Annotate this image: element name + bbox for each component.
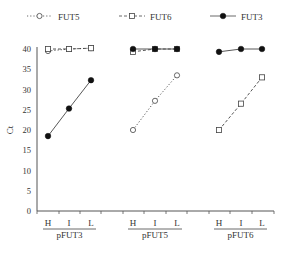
filled-circle-marker — [45, 133, 51, 139]
y-axis-title: Ct — [5, 125, 15, 134]
legend-item-fut6: FUT6 — [119, 12, 172, 22]
ct-line-chart: FUT5FUT6FUT3 0510152025303540Ct HILpFUT3… — [0, 0, 285, 253]
x-category-label: L — [259, 218, 265, 228]
open-square-marker — [88, 46, 93, 51]
legend-label: FUT6 — [150, 12, 172, 22]
legend-item-fut5: FUT5 — [27, 12, 80, 22]
series-fut3 — [216, 46, 265, 54]
group-label: pFUT5 — [142, 230, 169, 240]
open-circle-marker — [37, 13, 42, 18]
y-tick-label: 25 — [23, 105, 32, 115]
open-circle-marker — [130, 127, 135, 132]
plot-area — [45, 46, 265, 139]
open-circle-marker — [174, 73, 179, 78]
filled-circle-marker — [152, 46, 158, 52]
filled-circle-marker — [88, 77, 94, 83]
y-tick-label: 35 — [23, 64, 32, 74]
x-category-label: I — [68, 218, 71, 228]
group-pfut5 — [130, 46, 180, 132]
group-label: pFUT3 — [56, 230, 83, 240]
y-tick-label: 30 — [23, 85, 32, 95]
y-tick-label: 0 — [27, 206, 31, 216]
filled-circle-marker — [259, 46, 265, 52]
group-pfut3 — [45, 46, 94, 139]
group-pfut6 — [216, 46, 265, 132]
x-category-label: I — [154, 218, 157, 228]
x-category-label: H — [130, 218, 137, 228]
open-square-marker — [66, 46, 71, 51]
x-category-label: L — [88, 218, 94, 228]
x-category-label: I — [240, 218, 243, 228]
y-tick-label: 5 — [27, 186, 31, 196]
open-circle-marker — [152, 98, 157, 103]
series-fut5 — [130, 73, 179, 133]
filled-circle-marker — [66, 106, 72, 112]
open-square-marker — [45, 46, 50, 51]
legend-item-fut3: FUT3 — [210, 12, 263, 22]
series-fut3 — [130, 46, 180, 52]
chart-axes: 0510152025303540Ct — [5, 44, 274, 216]
y-tick-label: 10 — [23, 166, 32, 176]
filled-circle-marker — [130, 46, 136, 52]
filled-circle-marker — [216, 49, 222, 55]
chart-legend: FUT5FUT6FUT3 — [27, 12, 263, 22]
y-tick-label: 15 — [23, 145, 32, 155]
y-tick-label: 20 — [23, 125, 32, 135]
open-square-marker — [238, 101, 243, 106]
series-fut6 — [216, 75, 264, 133]
filled-circle-marker — [220, 13, 226, 19]
y-tick-label: 40 — [23, 44, 32, 54]
series-fut3 — [45, 77, 94, 138]
legend-label: FUT3 — [241, 12, 263, 22]
x-category-label: H — [45, 218, 52, 228]
open-square-marker — [129, 13, 134, 18]
open-square-marker — [216, 127, 221, 132]
filled-circle-marker — [238, 46, 244, 52]
open-square-marker — [259, 75, 264, 80]
filled-circle-marker — [174, 46, 180, 52]
x-category-label: H — [216, 218, 223, 228]
x-axis-labels: HILpFUT3HILpFUT5HILpFUT6 — [43, 218, 267, 240]
x-category-label: L — [174, 218, 180, 228]
group-label: pFUT6 — [227, 230, 254, 240]
legend-label: FUT5 — [58, 12, 80, 22]
